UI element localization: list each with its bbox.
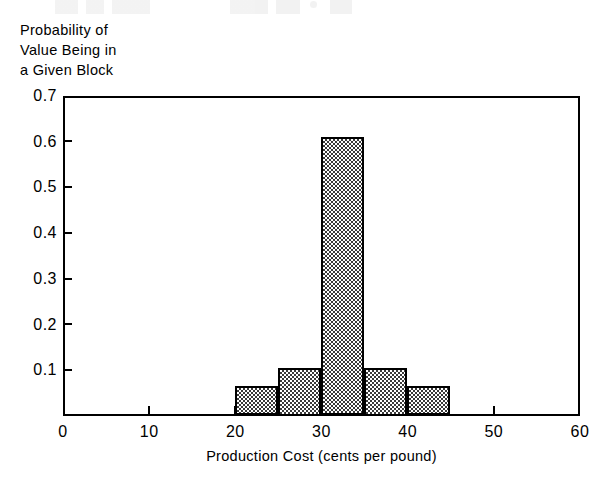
- plot-frame: [63, 96, 580, 416]
- x-tick-label: 30: [292, 423, 352, 441]
- x-tick-label: 10: [119, 423, 179, 441]
- y-axis-tick: [63, 186, 72, 188]
- x-axis-tick: [320, 406, 322, 416]
- scan-bleed-artifact: [0, 0, 603, 14]
- x-tick-label: 20: [205, 423, 265, 441]
- y-tick-label: 0.2: [11, 316, 57, 334]
- x-axis-tick: [148, 406, 150, 416]
- y-tick-label: 0.1: [11, 361, 57, 379]
- y-tick-label: 0.7: [11, 87, 57, 105]
- y-tick-label: 0.3: [11, 270, 57, 288]
- y-axis-tick: [63, 232, 72, 234]
- y-axis-tick: [63, 140, 72, 142]
- x-tick-label: 40: [378, 423, 438, 441]
- scan-bleed-dot: [310, 1, 317, 8]
- x-tick-label: 60: [550, 423, 603, 441]
- x-axis-title: Production Cost (cents per pound): [63, 448, 580, 464]
- y-axis-tick: [63, 278, 72, 280]
- x-axis-tick: [406, 406, 408, 416]
- y-tick-label: 0.4: [11, 224, 57, 242]
- y-tick-label: 0.6: [11, 133, 57, 151]
- x-axis-tick: [493, 406, 495, 416]
- histogram-bar: [235, 386, 278, 416]
- y-tick-label: 0.5: [11, 178, 57, 196]
- x-axis-tick: [234, 406, 236, 416]
- y-axis-tick: [63, 369, 72, 371]
- x-tick-label: 50: [464, 423, 524, 441]
- histogram-bar: [278, 368, 321, 416]
- y-tick-labels: 0.10.20.30.40.50.60.7: [0, 0, 57, 494]
- y-axis-tick: [63, 323, 72, 325]
- histogram-bar: [407, 386, 450, 416]
- x-tick-label: 0: [33, 423, 93, 441]
- histogram-bar: [321, 137, 364, 416]
- histogram-bar: [364, 368, 407, 416]
